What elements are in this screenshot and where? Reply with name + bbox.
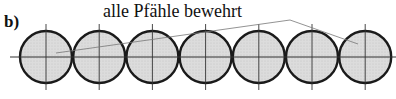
panel-label: b) bbox=[4, 12, 19, 31]
pile-wall-diagram: b) alle Pfähle bewehrt bbox=[0, 0, 396, 99]
annotation-text: alle Pfähle bewehrt bbox=[103, 1, 242, 21]
